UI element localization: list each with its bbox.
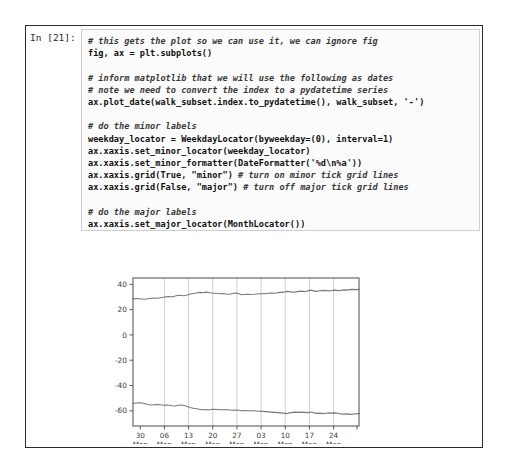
y-tick-label: 40 xyxy=(118,280,128,289)
y-tick-label: -60 xyxy=(115,406,127,415)
prompt-gutter: In [21]: xyxy=(26,26,81,447)
code-line: ax.xaxis.set_minor_locator(weekday_locat… xyxy=(88,145,475,157)
x-minor-tick-label-weekday: Mon xyxy=(326,440,341,445)
execution-count-label: In [21]: xyxy=(30,32,76,43)
plot-output: 30Mon06Mon13Mon20Mon27Mon03Mon10Mon17Mon… xyxy=(81,236,480,444)
code-line xyxy=(88,194,475,206)
code-line: ax.xaxis.grid(True, "minor") # turn on m… xyxy=(88,169,475,181)
plot-frame xyxy=(133,278,359,426)
x-minor-tick-label-weekday: Mon xyxy=(157,440,172,445)
x-minor-tick-label-weekday: Mon xyxy=(302,440,317,445)
y-tick-label: 0 xyxy=(122,331,127,340)
code-line: ax.xaxis.set_minor_formatter(DateFormatt… xyxy=(88,157,475,169)
x-minor-tick-label-weekday: Mon xyxy=(205,440,220,445)
code-line: # inform matplotlib that we will use the… xyxy=(88,72,475,84)
code-line: ax.xaxis.set_major_formatter(DateFormatt… xyxy=(88,230,475,231)
x-minor-tick-label-weekday: Mon xyxy=(181,440,196,445)
x-minor-tick-label-weekday: Mon xyxy=(278,440,293,445)
notebook-cell: In [21]: # this gets the plot so we can … xyxy=(25,25,483,448)
code-line: # this gets the plot so we can use it, w… xyxy=(88,35,475,47)
x-minor-tick-label-weekday: Mon xyxy=(133,440,148,445)
code-line: # note we need to convert the index to a… xyxy=(88,84,475,96)
code-line: # do the minor labels xyxy=(88,120,475,132)
code-input-area[interactable]: # this gets the plot so we can use it, w… xyxy=(81,29,480,231)
code-line xyxy=(88,108,475,120)
y-tick-label: -20 xyxy=(115,356,127,365)
code-line: weekday_locator = WeekdayLocator(byweekd… xyxy=(88,133,475,145)
code-line: ax.xaxis.set_major_locator(MonthLocator(… xyxy=(88,218,475,230)
code-line xyxy=(88,59,475,71)
y-tick-label: 20 xyxy=(118,305,128,314)
code-source: # this gets the plot so we can use it, w… xyxy=(88,35,475,231)
y-tick-label: -40 xyxy=(115,381,127,390)
data-series-line xyxy=(133,403,359,415)
matplotlib-figure: 30Mon06Mon13Mon20Mon27Mon03Mon10Mon17Mon… xyxy=(81,236,480,444)
x-minor-tick-label-weekday: Mon xyxy=(229,440,244,445)
code-line: fig, ax = plt.subplots() xyxy=(88,47,475,59)
code-line: ax.xaxis.grid(False, "major") # turn off… xyxy=(88,181,475,193)
code-line: # do the major labels xyxy=(88,206,475,218)
code-line: ax.plot_date(walk_subset.index.to_pydate… xyxy=(88,96,475,108)
x-minor-tick-label-weekday: Mon xyxy=(254,440,269,445)
data-series-line xyxy=(133,289,359,299)
